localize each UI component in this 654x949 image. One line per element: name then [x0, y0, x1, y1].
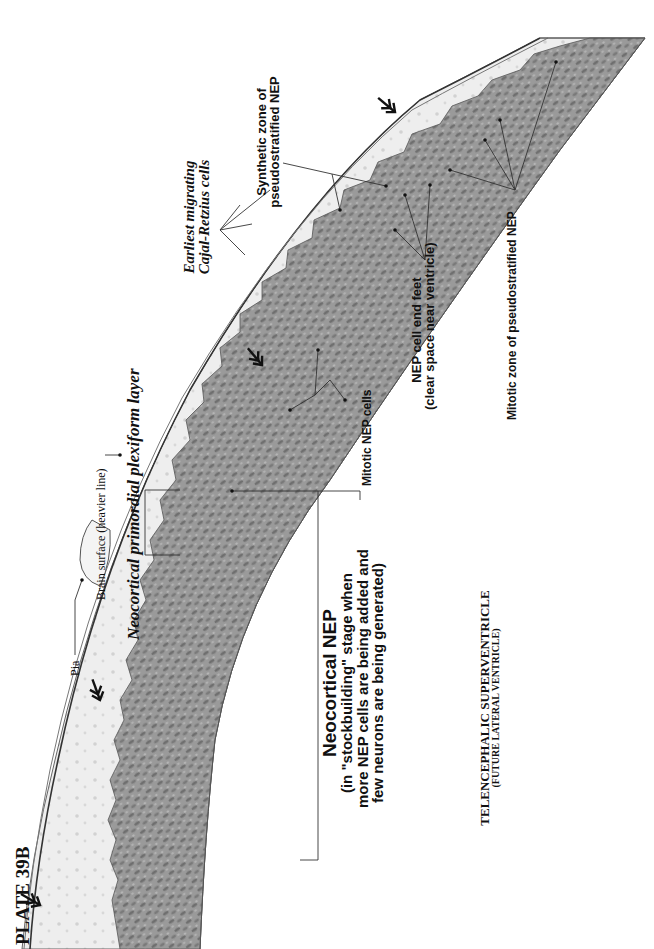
label-cajal-retzius: Earliest migrating Cajal-Retzius cells: [182, 142, 213, 292]
label-neocortical-nep-line2: more NEP cells are being added and: [355, 558, 370, 808]
label-neocortical-nep-line3: few neurons are being generated): [370, 558, 385, 808]
label-nep-end-feet-line2: (clear space near ventricle): [423, 250, 436, 410]
label-synthetic-zone-line2: pseudostratified NEP: [268, 72, 281, 212]
label-neocortical-nep-title: Neocortical NEP: [320, 558, 339, 808]
label-pia: Pia: [68, 661, 83, 676]
label-neocortical-nep: Neocortical NEP (in "stockbuilding" stag…: [320, 558, 385, 808]
label-neocortical-nep-line1: (in "stockbuilding" stage when: [339, 558, 354, 808]
label-mitotic-zone: Mitotic zone of pseudostratified NEP: [505, 211, 519, 420]
label-synthetic-zone: Synthetic zone of pseudostratified NEP: [255, 72, 282, 212]
label-synthetic-zone-line1: Synthetic zone of: [255, 72, 268, 212]
label-cajal-retzius-line2: Cajal-Retzius cells: [197, 142, 212, 292]
label-nep-end-feet: NEP cell end feet (clear space near vent…: [410, 250, 437, 410]
label-cajal-retzius-line1: Earliest migrating: [182, 142, 197, 292]
label-ventricle-line1: TELENCEPHALIC SUPERVENTRICLE: [478, 578, 491, 838]
label-telencephalic-superventricle: TELENCEPHALIC SUPERVENTRICLE (FUTURE LAT…: [478, 578, 501, 838]
label-brain-surface: Brain surface (heavier line): [94, 468, 109, 600]
label-ventricle-line2: (FUTURE LATERAL VENTRICLE): [491, 578, 501, 838]
label-primordial-plexiform-layer: Neocortical primordial plexiform layer: [124, 369, 144, 641]
label-mitotic-nep-cells: Mitotic NEP cells: [360, 390, 374, 486]
label-nep-end-feet-line1: NEP cell end feet: [410, 250, 423, 410]
plate-title: PLATE 39B: [12, 847, 34, 945]
